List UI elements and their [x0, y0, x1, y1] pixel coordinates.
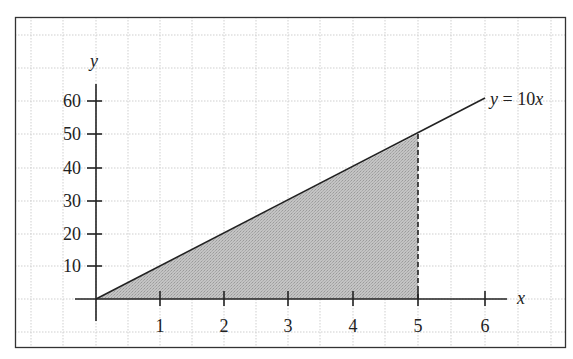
x-axis-label: x [516, 288, 525, 308]
x-tick-label: 2 [220, 316, 229, 336]
x-tick-label: 3 [284, 316, 293, 336]
curve-label: y = 10x [488, 89, 543, 109]
chart-figure: 1 2 3 4 5 6 10 20 30 40 50 60 y x y = 10… [0, 0, 573, 359]
x-tick-label: 1 [156, 316, 165, 336]
y-tick-label: 60 [63, 91, 81, 111]
curve-label-y: y [488, 89, 498, 109]
x-tick-label: 6 [481, 316, 490, 336]
y-axis-label: y [88, 51, 98, 71]
y-ticks [87, 101, 102, 266]
x-tick-label: 5 [414, 316, 423, 336]
curve-label-x: x [534, 89, 543, 109]
x-tick-labels: 1 2 3 4 5 6 [156, 316, 490, 336]
y-tick-labels: 10 20 30 40 50 60 [63, 91, 81, 276]
y-tick-label: 40 [63, 158, 81, 178]
y-tick-label: 20 [63, 224, 81, 244]
x-tick-label: 4 [349, 316, 358, 336]
y-tick-label: 10 [63, 256, 81, 276]
y-tick-label: 50 [63, 124, 81, 144]
curve-label-eq: = 10 [498, 89, 535, 109]
y-tick-label: 30 [63, 191, 81, 211]
